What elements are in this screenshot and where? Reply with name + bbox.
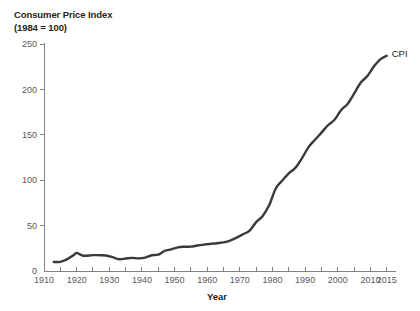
y-tick-label: 50 — [27, 221, 37, 231]
cpi-line — [54, 56, 387, 262]
cpi-chart: Consumer Price Index (1984 = 100) 050100… — [0, 0, 420, 311]
x-tick-label: 1950 — [165, 275, 185, 285]
y-tick-label: 200 — [22, 85, 37, 95]
x-tick-label: 2015 — [377, 275, 397, 285]
y-tick-label: 150 — [22, 130, 37, 140]
y-axis: 050100150200250 — [22, 39, 44, 276]
x-tick-label: 1960 — [197, 275, 217, 285]
x-tick-label: 1910 — [34, 275, 54, 285]
x-tick-label: 1920 — [67, 275, 87, 285]
y-tick-label: 250 — [22, 39, 37, 49]
x-tick-label: 2000 — [328, 275, 348, 285]
x-tick-label: 1990 — [295, 275, 315, 285]
plot-area: 050100150200250 191019201930194019501960… — [0, 0, 420, 311]
x-tick-label: 1970 — [230, 275, 250, 285]
x-tick-label: 1930 — [99, 275, 119, 285]
x-tick-label: 1980 — [262, 275, 282, 285]
cpi-series-label: CPI — [392, 48, 408, 59]
x-axis-title: Year — [207, 291, 227, 302]
x-tick-label: 1940 — [132, 275, 152, 285]
series-layer: CPI — [54, 48, 408, 262]
x-axis: 1910192019301940195019601970198019902000… — [34, 267, 397, 285]
y-tick-label: 100 — [22, 175, 37, 185]
